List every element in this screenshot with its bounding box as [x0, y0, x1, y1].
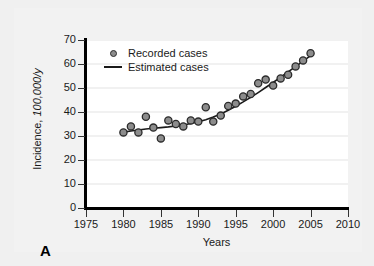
x-tick-label: 2000	[253, 219, 293, 230]
x-tick	[123, 210, 124, 217]
figure-screenshot: 010203040506070 197519801985199019952000…	[0, 0, 374, 266]
x-tick-label: 1990	[178, 219, 218, 230]
data-point	[217, 112, 224, 119]
data-point	[210, 118, 217, 125]
figure-panel: 010203040506070 197519801985199019952000…	[14, 8, 362, 252]
data-point	[127, 123, 134, 130]
x-tick-label: 1975	[66, 219, 106, 230]
y-tick-label: 70	[48, 34, 76, 45]
y-tick	[78, 184, 85, 185]
y-tick	[78, 112, 85, 113]
x-tick	[348, 210, 349, 217]
legend-label-estimated-cases: Estimated cases	[128, 61, 209, 73]
legend-item-estimated-cases: Estimated cases	[102, 60, 209, 74]
x-tick-label: 2010	[328, 219, 368, 230]
panel-label: A	[40, 242, 51, 259]
data-point	[299, 57, 306, 64]
x-axis-title: Years	[84, 236, 349, 248]
data-point	[195, 118, 202, 125]
x-tick	[161, 210, 162, 217]
y-tick	[78, 40, 85, 41]
y-tick	[78, 136, 85, 137]
y-tick	[78, 160, 85, 161]
x-tick	[311, 210, 312, 217]
data-point	[240, 93, 247, 100]
data-point	[150, 124, 157, 131]
y-axis-title-italic: 100,000/y	[31, 68, 43, 119]
y-tick-label: 50	[48, 82, 76, 93]
data-point	[202, 104, 209, 111]
data-point	[285, 71, 292, 78]
data-point	[180, 123, 187, 130]
x-tick-label: 1980	[103, 219, 143, 230]
circle-marker-icon	[102, 50, 124, 57]
data-point	[172, 120, 179, 127]
data-point	[187, 117, 194, 124]
line-segment-icon	[102, 66, 124, 68]
y-tick	[78, 208, 85, 209]
data-point	[165, 117, 172, 124]
legend-label-recorded-cases: Recorded cases	[128, 47, 208, 59]
x-tick-label: 2005	[291, 219, 331, 230]
data-point	[232, 100, 239, 107]
x-tick	[273, 210, 274, 217]
data-point	[142, 113, 149, 120]
chart-legend: Recorded cases Estimated cases	[102, 46, 209, 74]
y-tick-label: 30	[48, 130, 76, 141]
y-tick-label: 20	[48, 154, 76, 165]
y-tick	[78, 88, 85, 89]
y-tick-label: 10	[48, 178, 76, 189]
x-tick	[86, 210, 87, 217]
data-point	[255, 80, 262, 87]
data-point	[277, 75, 284, 82]
y-axis-title: Incidence, 100,000/y	[31, 59, 43, 179]
data-point	[135, 129, 142, 136]
y-tick	[78, 64, 85, 65]
data-point	[307, 50, 314, 57]
x-tick-label: 1985	[141, 219, 181, 230]
data-point	[120, 129, 127, 136]
y-tick-label: 40	[48, 106, 76, 117]
y-axis-title-plain: Incidence,	[31, 120, 43, 170]
x-tick	[198, 210, 199, 217]
data-point	[262, 76, 269, 83]
data-point	[270, 82, 277, 89]
x-tick-label: 1995	[216, 219, 256, 230]
y-tick-label: 0	[48, 202, 76, 213]
data-point	[247, 90, 254, 97]
y-tick-label: 60	[48, 58, 76, 69]
data-point	[157, 135, 164, 142]
legend-item-recorded-cases: Recorded cases	[102, 46, 209, 60]
x-tick	[236, 210, 237, 217]
data-point	[292, 63, 299, 70]
data-point	[225, 102, 232, 109]
